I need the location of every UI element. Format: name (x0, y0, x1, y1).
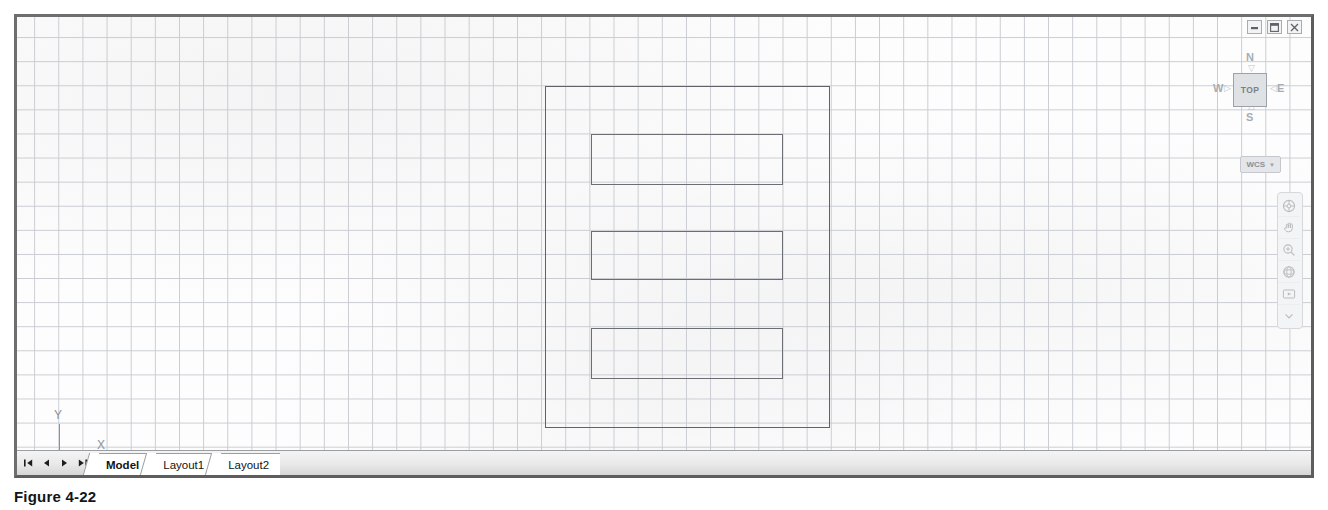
tab-layout1-label: Layout1 (163, 459, 204, 471)
tab-navigation-buttons (17, 451, 91, 475)
pan-hand-icon[interactable] (1278, 216, 1300, 238)
next-tab-button[interactable] (56, 455, 73, 472)
inner-rectangle-3[interactable] (591, 328, 783, 379)
viewcube-north-label[interactable]: N (1246, 51, 1254, 63)
ucs-y-axis-line (59, 424, 60, 451)
showmotion-icon[interactable] (1278, 282, 1300, 304)
viewcube-east-arrow-icon[interactable]: ◁ (1270, 83, 1277, 93)
close-button[interactable] (1287, 20, 1302, 34)
navigation-bar[interactable] (1277, 192, 1303, 329)
zoom-extents-icon[interactable] (1278, 238, 1300, 260)
chevron-down-icon[interactable]: ▼ (1269, 162, 1275, 168)
previous-tab-button[interactable] (38, 455, 55, 472)
autocad-drawing-window: Y X (14, 14, 1314, 478)
tab-model-label: Model (106, 459, 139, 471)
model-space-canvas[interactable]: Y X (17, 17, 1311, 451)
viewcube-top-face[interactable]: TOP (1233, 73, 1267, 107)
inner-rectangle-1[interactable] (591, 134, 783, 185)
minimize-button[interactable] (1247, 20, 1262, 34)
window-controls (1247, 20, 1302, 34)
viewcube-east-label[interactable]: E (1277, 82, 1284, 94)
ucs-y-axis-label: Y (54, 408, 62, 422)
tab-list: Model Layout1 Layout2 (93, 451, 280, 475)
inner-rectangle-2[interactable] (591, 231, 783, 280)
viewcube-west-label[interactable]: W (1213, 82, 1223, 94)
viewcube-north-arrow-icon[interactable]: ▽ (1248, 63, 1255, 73)
tab-layout2-label: Layout2 (228, 459, 269, 471)
ucs-icon: Y X (51, 410, 113, 451)
viewcube-west-arrow-icon[interactable]: ▷ (1224, 83, 1231, 93)
first-tab-button[interactable] (20, 455, 37, 472)
nav-more-icon[interactable] (1278, 304, 1300, 326)
wcs-selector[interactable]: WCS ▼ (1240, 156, 1281, 173)
viewcube-south-label[interactable]: S (1246, 111, 1253, 123)
orbit-icon[interactable] (1278, 260, 1300, 282)
view-cube[interactable]: N S E W ▽ △ ◁ ▷ TOP (1215, 49, 1289, 131)
tab-bar-spacer (280, 451, 1311, 475)
wcs-label: WCS (1246, 160, 1265, 169)
restore-button[interactable] (1267, 20, 1282, 34)
layout-tab-bar: Model Layout1 Layout2 (17, 450, 1311, 475)
figure-caption: Figure 4-22 (14, 488, 96, 510)
tab-layout2[interactable]: Layout2 (215, 453, 280, 475)
steering-wheel-icon[interactable] (1278, 195, 1300, 216)
